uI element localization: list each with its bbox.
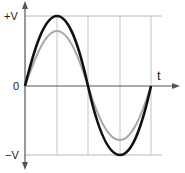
time-axis-label: t [157,68,161,83]
negative-peak-label: −V [5,149,19,161]
time-axis [25,83,180,89]
voltage-axis-up-arrow-icon [22,1,28,9]
voltage-axis-down-arrow-icon [22,162,28,170]
time-axis-arrow-icon [172,83,180,89]
zero-label: 0 [13,80,19,92]
sine-wave-diagram: +V 0 −V t [0,0,185,173]
positive-peak-label: +V [4,10,18,22]
